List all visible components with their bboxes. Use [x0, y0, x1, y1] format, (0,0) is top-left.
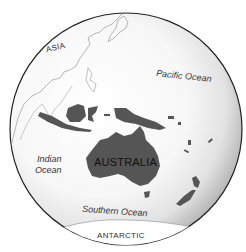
label-indian-ocean-line1: Indian: [37, 155, 62, 164]
label-indian-ocean-line2: Ocean: [35, 166, 62, 175]
island: [104, 114, 110, 116]
label-australia: AUSTRALIA: [94, 157, 157, 168]
label-antarctic: ANTARCTIC: [97, 232, 145, 240]
island: [178, 122, 181, 125]
island: [168, 116, 174, 119]
island: [188, 140, 191, 145]
